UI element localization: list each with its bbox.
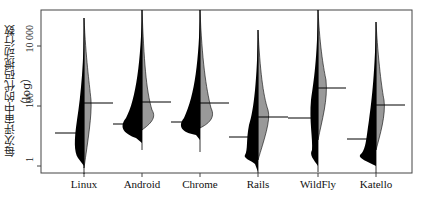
x-tick-chrome: Chrome (182, 178, 217, 190)
x-tick-linux: Linux (71, 178, 97, 190)
x-tick-marks (84, 173, 376, 177)
bean-katello (347, 22, 405, 173)
beanplot (0, 0, 423, 200)
bean-linux (55, 18, 113, 174)
bean-wildfly (288, 10, 346, 172)
x-tick-android: Android (124, 178, 161, 190)
bean-rails (229, 30, 288, 173)
plot-frame (41, 10, 412, 173)
x-tick-rails: Rails (247, 178, 270, 190)
x-tick-wildfly: WildFly (300, 178, 336, 190)
bean-android (113, 10, 171, 150)
bean-chrome (171, 10, 229, 152)
x-tick-katello: Katello (360, 178, 392, 190)
